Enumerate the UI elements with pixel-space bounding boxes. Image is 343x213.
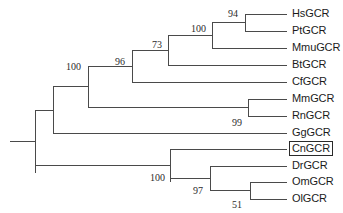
tip-label-rn: RnGCR xyxy=(292,110,330,121)
tip-label-gg: GgGCR xyxy=(292,127,331,138)
tip-label-bt: BtGCR xyxy=(292,59,326,70)
tip-label-pt: PtGCR xyxy=(292,25,326,36)
bootstrap-value-n-euarchonta: 73 xyxy=(152,40,162,50)
bootstrap-value-n-hs-pt: 94 xyxy=(228,9,238,19)
tip-label-dr: DrGCR xyxy=(292,160,328,171)
bootstrap-value-n-om-ol: 51 xyxy=(232,200,242,210)
bootstrap-value-n-teleost: 97 xyxy=(193,186,203,196)
tip-label-cf: CfGCR xyxy=(292,76,327,87)
bootstrap-value-n-laurasiatheria: 96 xyxy=(115,57,125,67)
tip-label-mm: MmGCR xyxy=(292,93,334,104)
tip-label-cn: CnGCR xyxy=(289,141,333,156)
tip-label-ol: OlGCR xyxy=(292,193,327,204)
tip-label-om: OmGCR xyxy=(292,176,334,187)
tip-label-hs: HsGCR xyxy=(292,8,329,19)
bootstrap-value-n-mammals: 100 xyxy=(66,62,81,72)
bootstrap-value-n-fish: 100 xyxy=(150,173,165,183)
phylogenetic-tree-figure: HsGCRPtGCRMmuGCRBtGCRCfGCRMmGCRRnGCRGgGC… xyxy=(0,0,343,213)
tip-label-mmu: MmuGCR xyxy=(292,42,340,53)
bootstrap-value-n-rodents: 99 xyxy=(232,118,242,128)
bootstrap-value-n-primates: 100 xyxy=(191,24,206,34)
